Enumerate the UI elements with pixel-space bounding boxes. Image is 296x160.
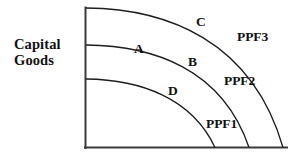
y-axis-label-line2: Goods <box>14 52 61 68</box>
point-label-a: A <box>134 41 144 56</box>
y-axis-label-line1: Capital <box>14 36 61 52</box>
ppf-diagram: Capital Goods C PPF3 A B PPF2 D PPF1 <box>0 0 296 160</box>
y-axis-label: Capital Goods <box>14 36 61 68</box>
curve-label-ppf1: PPF1 <box>206 116 237 131</box>
point-label-b: B <box>188 54 197 69</box>
curve-label-ppf3: PPF3 <box>237 29 268 44</box>
ppf1-curve <box>86 79 215 148</box>
point-label-c: C <box>196 14 206 29</box>
curve-label-ppf2: PPF2 <box>224 73 255 88</box>
point-label-d: D <box>168 83 178 98</box>
